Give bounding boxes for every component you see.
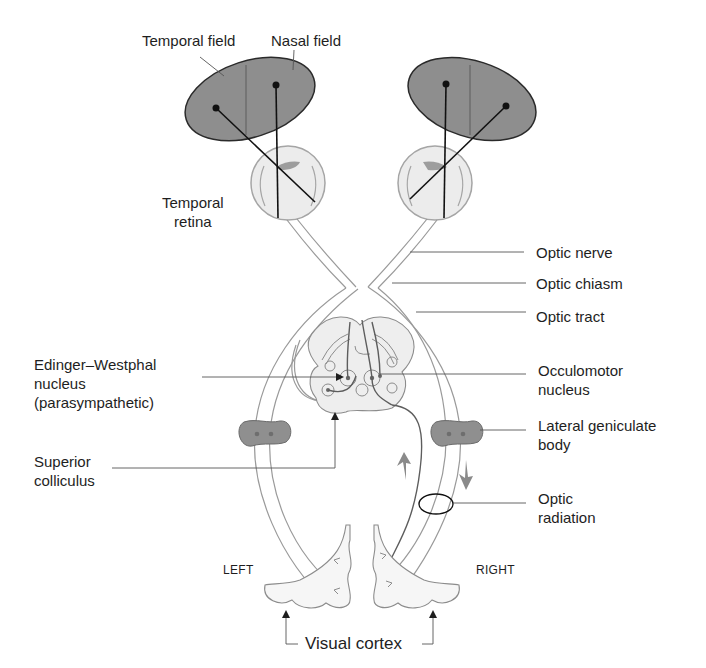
- diagram-canvas: [0, 0, 706, 668]
- midbrain: [308, 317, 422, 568]
- label-lateral-geniculate-body: Lateral geniculate body: [538, 416, 656, 454]
- left-lgn: [239, 421, 291, 447]
- label-right: RIGHT: [476, 561, 515, 580]
- flow-arrows: [397, 452, 473, 490]
- label-visual-cortex: Visual cortex: [305, 634, 402, 653]
- label-optic-radiation: Optic radiation: [538, 489, 596, 527]
- label-nasal-field: Nasal field: [271, 31, 341, 50]
- right-lgn: [431, 421, 483, 447]
- label-optic-tract: Optic tract: [536, 307, 604, 326]
- label-edinger-westphal-nucleus: Edinger–Westphal nucleus (parasympatheti…: [34, 355, 156, 412]
- left-visual-field: [175, 42, 326, 156]
- label-temporal-retina: Temporal retina: [162, 193, 224, 231]
- visual-pathway-diagram: Temporal field Nasal field Temporal reti…: [0, 0, 706, 668]
- left-eye: [251, 146, 325, 220]
- optic-pathways: [254, 219, 460, 605]
- label-optic-chiasm: Optic chiasm: [536, 274, 623, 293]
- label-left: LEFT: [223, 561, 254, 580]
- label-optic-nerve: Optic nerve: [536, 243, 613, 262]
- label-superior-colliculus: Superior colliculus: [34, 452, 95, 490]
- label-temporal-field: Temporal field: [142, 31, 235, 50]
- label-occulomotor-nucleus: Occulomotor nucleus: [538, 361, 623, 399]
- right-eye: [398, 146, 472, 220]
